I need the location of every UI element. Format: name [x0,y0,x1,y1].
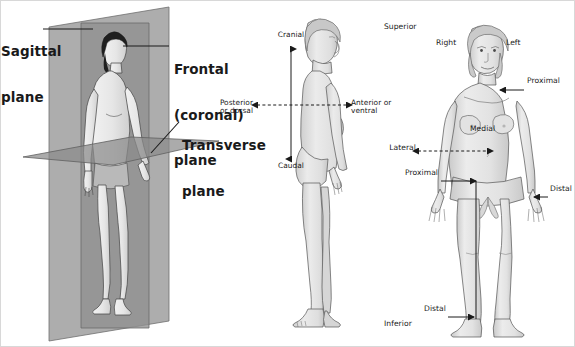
lateral-body-illustration [251,1,401,347]
label-cranial: Cranial [267,31,315,39]
anatomy-figure: Sagittal plane Frontal (coronal) plane T… [0,0,575,347]
label-superior: Superior [384,23,417,32]
label-distal-foot: Distal [404,305,446,314]
label-medial: Medial [470,125,495,134]
label-distal-hand: Distal [550,185,572,194]
label-posterior-dorsal: Posterior or dorsal [205,99,253,116]
label-left-side: Left [506,39,521,48]
label-proximal-leg: Proximal [392,169,438,178]
label-caudal: Caudal [267,162,315,170]
label-lateral: Lateral [372,144,416,153]
panel-body-planes: Sagittal plane Frontal (coronal) plane T… [1,1,286,347]
body-figure-lateral [293,19,347,327]
label-inferior: Inferior [384,320,412,329]
label-proximal-arm: Proximal [527,77,560,86]
panel-lateral-view: Cranial Caudal Posterior or dorsal Anter… [251,1,401,347]
label-right-side: Right [436,39,456,48]
panel-anterior-view: Superior Inferior Right Left Medial Late… [396,1,575,347]
label-sagittal-plane: Sagittal plane [1,14,41,135]
